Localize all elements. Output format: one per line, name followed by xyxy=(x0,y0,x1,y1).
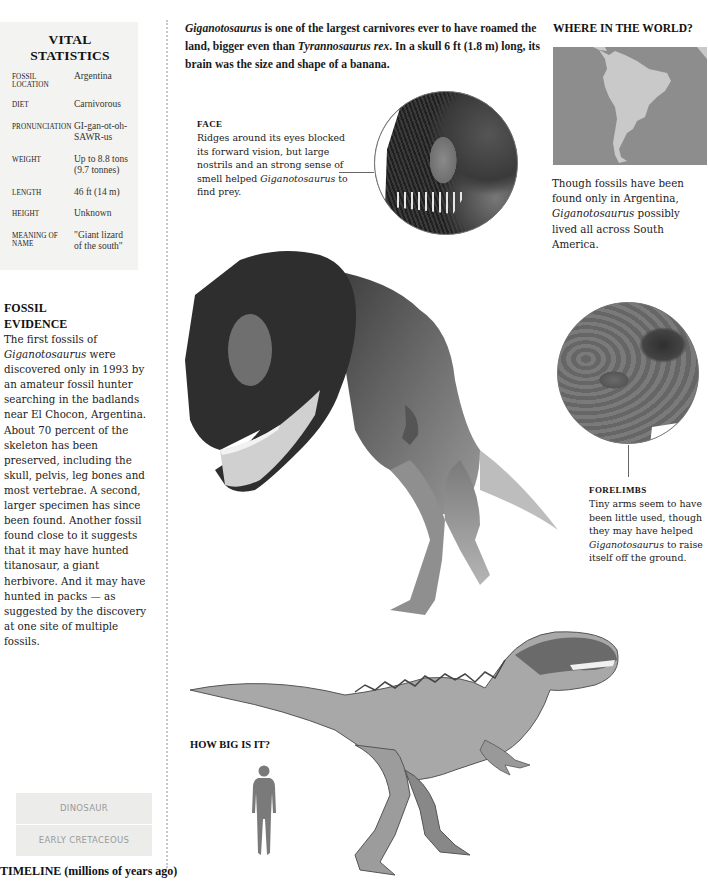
stat-label: Diet xyxy=(12,99,74,111)
face-caption-body: Ridges around its eyes blocked its forwa… xyxy=(197,131,357,198)
stat-row-fossil-location: Fossil Location Argentina xyxy=(12,71,132,89)
fossil-body-post: were discovered only in 1993 by an amate… xyxy=(4,348,146,647)
forelimb-image-cutout xyxy=(643,415,699,444)
stat-value: 46 ft (14 m) xyxy=(74,187,120,199)
stat-row-weight: Weight Up to 8.8 tons (9.7 tonnes) xyxy=(12,154,132,177)
face-image-cutout xyxy=(375,92,405,235)
trex-name: Tyrannosaurus rex xyxy=(298,40,389,53)
how-big-title: HOW BIG IS IT? xyxy=(190,739,270,750)
stat-label: Fossil Location xyxy=(12,71,74,89)
face-caption-title: Face xyxy=(197,118,357,131)
species-name: Giganotosaurus xyxy=(4,348,86,360)
fossil-evidence-title: FOSSIL EVIDENCE xyxy=(4,300,154,332)
forelimb-detail-image xyxy=(557,302,699,444)
species-name: Giganotosaurus xyxy=(260,173,335,184)
map-caption-pre: Though fossils have been found only in A… xyxy=(552,177,684,204)
stat-value: Argentina xyxy=(74,71,112,89)
stat-label: Weight xyxy=(12,154,74,177)
timeline-dinosaur-box: DINOSAUR xyxy=(16,793,152,824)
fossil-title-line1: FOSSIL xyxy=(4,301,47,315)
stat-row-height: Height Unknown xyxy=(12,208,132,220)
stat-value: Unknown xyxy=(74,208,111,220)
forelimbs-caption: Forelimbs Tiny arms seem to have been li… xyxy=(589,484,708,564)
face-callout-line xyxy=(339,172,374,173)
forelimbs-caption-body: Tiny arms seem to have been little used,… xyxy=(589,497,708,564)
forelimbs-body-pre: Tiny arms seem to have been little used,… xyxy=(589,498,702,536)
south-america-map xyxy=(553,47,707,165)
forelimbs-caption-title: Forelimbs xyxy=(589,484,708,497)
fossil-evidence-section: FOSSIL EVIDENCE The first fossils of Gig… xyxy=(4,300,154,649)
stat-row-meaning-of-name: Meaning of name "Giant lizard of the sou… xyxy=(12,230,132,253)
timeline-title: TIMELINE (millions of years ago) xyxy=(0,864,177,879)
teeth-detail xyxy=(397,192,467,214)
stat-value: GI-gan-ot-oh-SAWR-us xyxy=(74,121,132,144)
species-name: Giganotosaurus xyxy=(552,207,634,219)
vital-statistics-panel: VITAL STATISTICS Fossil Location Argenti… xyxy=(0,22,138,270)
timeline-period-box: EARLY CRETACEOUS xyxy=(16,825,152,856)
stat-value: Carnivorous xyxy=(74,99,121,111)
fossil-body-pre: The first fossils of xyxy=(4,333,97,345)
stat-label: Length xyxy=(12,187,74,199)
where-in-world-title: WHERE IN THE WORLD? xyxy=(553,22,693,34)
intro-paragraph: Giganotosaurus is one of the largest car… xyxy=(185,20,540,74)
fossil-evidence-body: The first fossils of Giganotosaurus were… xyxy=(4,332,154,649)
species-name: Giganotosaurus xyxy=(185,22,262,35)
forelimb-callout-line xyxy=(628,445,629,477)
stat-row-pronunciation: Pronunciation GI-gan-ot-oh-SAWR-us xyxy=(12,121,132,144)
stat-row-diet: Diet Carnivorous xyxy=(12,99,132,111)
stat-value: "Giant lizard of the south" xyxy=(74,230,132,253)
dotted-divider xyxy=(166,20,168,868)
south-america-map-icon xyxy=(553,47,707,165)
species-name: Giganotosaurus xyxy=(589,539,664,550)
face-caption: Face Ridges around its eyes blocked its … xyxy=(197,118,357,198)
face-detail-image xyxy=(374,91,518,235)
fossil-title-line2: EVIDENCE xyxy=(4,317,67,331)
human-silhouette-icon xyxy=(246,763,282,859)
stat-value: Up to 8.8 tons (9.7 tonnes) xyxy=(74,154,132,177)
map-caption: Though fossils have been found only in A… xyxy=(552,176,708,252)
stat-label: Pronunciation xyxy=(12,121,74,144)
stat-label: Meaning of name xyxy=(12,230,74,253)
stat-label: Height xyxy=(12,208,74,220)
giganotosaurus-front-illustration xyxy=(180,240,560,640)
stat-row-length: Length 46 ft (14 m) xyxy=(12,187,132,199)
vital-statistics-title: VITAL STATISTICS xyxy=(8,32,132,64)
